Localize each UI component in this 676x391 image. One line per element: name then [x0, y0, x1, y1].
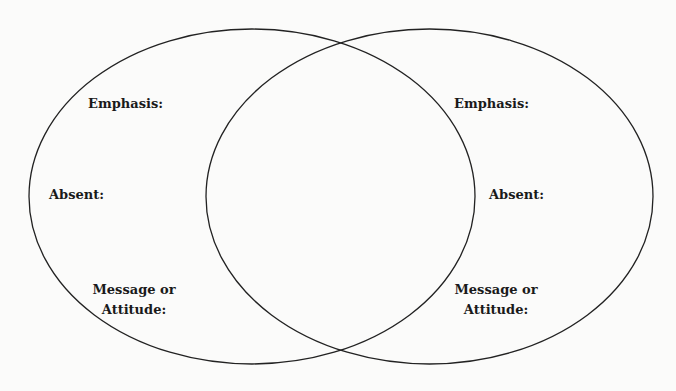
venn-diagram: Emphasis: Absent: Message or Attitude: E…	[0, 0, 676, 391]
right-emphasis-label: Emphasis:	[454, 94, 529, 114]
left-absent-label: Absent:	[49, 185, 104, 205]
right-message-label: Message or Attitude:	[446, 280, 546, 320]
right-absent-label: Absent:	[489, 185, 544, 205]
left-message-line1: Message or	[84, 280, 184, 300]
right-ellipse	[206, 29, 653, 364]
right-message-line2: Attitude:	[446, 300, 546, 320]
left-emphasis-label: Emphasis:	[88, 94, 163, 114]
left-message-label: Message or Attitude:	[84, 280, 184, 320]
left-message-line2: Attitude:	[84, 300, 184, 320]
right-message-line1: Message or	[446, 280, 546, 300]
